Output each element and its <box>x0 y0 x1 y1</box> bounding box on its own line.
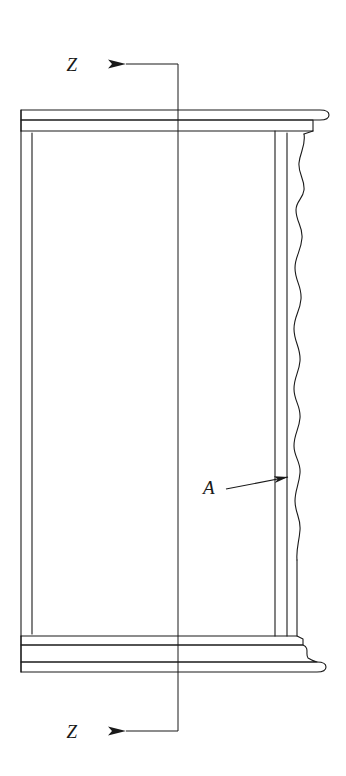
drawing-svg: Z Z A <box>0 0 346 776</box>
cylinder-liner-outline <box>21 110 329 672</box>
left-wall <box>21 131 32 636</box>
right-wall-outer-wavy <box>287 131 313 636</box>
section-label-z-top: Z <box>66 54 77 75</box>
bottom-flange <box>21 636 326 672</box>
technical-drawing-canvas: Z Z A <box>0 0 346 776</box>
section-mark-z-top: Z <box>66 54 178 75</box>
section-mark-z-bottom: Z <box>66 721 178 742</box>
detail-label-a: A <box>201 477 215 498</box>
top-flange <box>21 110 329 131</box>
section-label-z-bottom: Z <box>66 721 77 742</box>
